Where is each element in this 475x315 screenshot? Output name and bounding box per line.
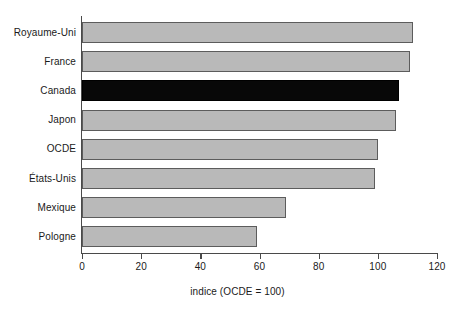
x-tick-label-120: 120 (429, 261, 446, 273)
bar-row (82, 197, 286, 218)
bar-france (82, 51, 410, 72)
bar-mexique (82, 197, 286, 218)
bar-row (82, 226, 257, 247)
category-label--tats-unis: États-Unis (29, 173, 76, 185)
category-label-royaume-uni: Royaume-Uni (14, 27, 76, 39)
category-label-japon: Japon (48, 114, 76, 126)
bar-row (82, 139, 378, 160)
x-axis-title: indice (OCDE = 100) (0, 286, 475, 298)
category-label-pologne: Pologne (39, 231, 76, 243)
x-tick-20 (141, 254, 142, 259)
bar-row (82, 110, 396, 131)
x-tick-40 (200, 254, 201, 259)
x-tick-label-0: 0 (79, 261, 85, 273)
x-tick-0 (82, 254, 83, 259)
x-tick-label-100: 100 (369, 261, 386, 273)
bar-japon (82, 110, 396, 131)
x-tick-label-40: 40 (195, 261, 206, 273)
bar-row (82, 168, 375, 189)
bar-canada (82, 80, 399, 101)
x-tick-60 (260, 254, 261, 259)
category-label-ocde: OCDE (47, 143, 76, 155)
category-label-canada: Canada (40, 85, 76, 97)
x-tick-label-80: 80 (313, 261, 324, 273)
bar-ocde (82, 139, 378, 160)
bar-row (82, 51, 410, 72)
x-tick-120 (437, 254, 438, 259)
bar--tats-unis (82, 168, 375, 189)
x-tick-80 (319, 254, 320, 259)
category-label-mexique: Mexique (38, 202, 77, 214)
category-label-france: France (44, 56, 76, 68)
bar-chart: 020406080100120 Royaume-UniFranceCanadaJ… (0, 0, 475, 315)
bar-royaume-uni (82, 22, 413, 43)
x-tick-label-60: 60 (254, 261, 265, 273)
bar-row (82, 22, 413, 43)
x-tick-100 (378, 254, 379, 259)
bar-row (82, 80, 399, 101)
x-tick-label-20: 20 (135, 261, 146, 273)
bar-pologne (82, 226, 257, 247)
